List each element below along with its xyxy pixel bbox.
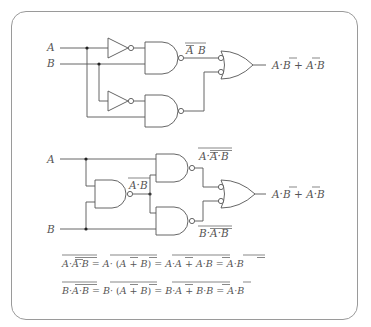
- or-input-bubble-icon: [218, 198, 223, 203]
- wire-b-branch: [99, 64, 108, 101]
- input-label-a: A: [46, 153, 55, 165]
- not-bubble-icon: [128, 45, 133, 50]
- junction-a: [84, 157, 87, 160]
- input-label-b: B: [46, 57, 55, 69]
- or-gate-top: [221, 51, 253, 79]
- equation-text: A·A·B = A· (A + B) = A·A + A·B = A·B: [61, 258, 244, 269]
- not-gate-a: [108, 38, 128, 58]
- nand-bubble-icon: [178, 108, 183, 113]
- equation-1: A·A·B = A· (A + B) = A·A + A·B = A·B: [61, 255, 265, 269]
- equation-text: B·A·B = B· (A + B) = B·A + B·B = A·B: [61, 285, 244, 296]
- label-text: A·B: [128, 179, 148, 191]
- wire: [195, 201, 219, 221]
- label-nand-top-output: A B: [185, 43, 206, 56]
- nand-bubble-icon: [189, 218, 194, 223]
- nand-gate-lower: [156, 207, 188, 235]
- equation-2: B·A·B = B· (A + B) = B·A + B·B = A·B: [61, 282, 251, 296]
- label-nand-upper-output: A·A·B: [198, 148, 232, 162]
- label-b: B: [197, 44, 206, 56]
- nand-gate-top: [145, 42, 178, 74]
- wire-b-branch: [86, 202, 95, 229]
- output-text: A·B + A·B: [271, 188, 325, 200]
- wire-a-branch: [86, 159, 95, 186]
- input-label-b: B: [46, 223, 55, 235]
- nand-gate-bottom: [145, 95, 178, 127]
- or-input-bubble-icon: [218, 69, 223, 74]
- not-bubble-icon: [128, 98, 133, 103]
- wire: [195, 168, 219, 187]
- nand-bubble-icon: [178, 55, 183, 60]
- output-text: A·B + A·B: [271, 59, 325, 71]
- wire: [184, 72, 219, 111]
- nand-bubble-icon: [189, 165, 194, 170]
- nand-gate-upper: [156, 154, 188, 182]
- circuit-top: A B A B: [46, 38, 325, 127]
- circuit-bottom: A B A·B A·A·B: [46, 148, 325, 239]
- output-label-bottom: A·B + A·B: [271, 187, 325, 200]
- junction-b: [97, 62, 100, 65]
- label-nand-middle-output: A·B: [128, 178, 150, 191]
- logic-diagram: A B A B: [0, 0, 371, 327]
- not-gate-b: [108, 91, 128, 111]
- output-label-top: A·B + A·B: [271, 58, 325, 71]
- or-gate-bottom: [221, 180, 255, 208]
- nand-bubble-icon: [127, 191, 132, 196]
- label-text: A·A·B: [198, 150, 229, 162]
- junction-b: [84, 227, 87, 230]
- or-input-bubble-icon: [218, 55, 223, 60]
- junction-a: [85, 46, 88, 49]
- label-nand-lower-output: B·A·B: [198, 226, 232, 239]
- or-input-bubble-icon: [218, 184, 223, 189]
- input-label-a: A: [46, 41, 55, 53]
- nand-gate-middle: [95, 180, 126, 208]
